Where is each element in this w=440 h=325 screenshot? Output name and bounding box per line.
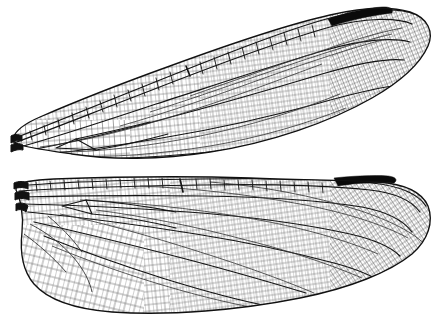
wing-plate [0, 0, 440, 325]
wing-venation-svg [0, 0, 440, 325]
